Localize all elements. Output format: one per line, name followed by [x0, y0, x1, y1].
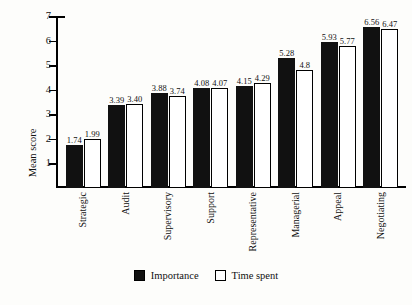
bar-negotiating-time-spent[interactable]: 6.47	[381, 29, 398, 188]
x-axis-cell: Support	[193, 190, 228, 262]
y-tick-label: 5	[46, 60, 51, 71]
legend-item-time-spent[interactable]: Time spent	[215, 270, 279, 281]
x-axis-category-labels: StrategicAuditSupervisorySupportRepresen…	[56, 190, 406, 262]
bar-representative-importance[interactable]: 4.15	[236, 86, 253, 188]
bar-value-label: 6.56	[364, 18, 379, 27]
bar-slot: 3.40	[126, 16, 143, 188]
bar-value-label: 3.88	[152, 84, 167, 93]
x-axis-cell: Audit	[108, 190, 143, 262]
bar-value-label: 4.8	[299, 61, 310, 70]
bar-slot: 1.99	[84, 16, 101, 188]
plot-area: 1234567 1.741.993.393.403.883.744.084.07…	[56, 16, 406, 188]
bar-managerial-time-spent[interactable]: 4.8	[296, 70, 313, 188]
bar-value-label: 4.07	[212, 79, 227, 88]
bar-value-label: 4.29	[255, 74, 270, 83]
x-axis-cell: Appeal	[321, 190, 356, 262]
bar-audit-importance[interactable]: 3.39	[108, 105, 125, 188]
x-axis-label-appeal: Appeal	[333, 192, 343, 221]
x-axis-cell: Strategic	[66, 190, 101, 262]
y-tick-label: 2	[46, 134, 51, 145]
bar-value-label: 4.15	[237, 77, 252, 86]
x-axis-label-supervisory: Supervisory	[163, 192, 173, 240]
x-axis-cell: Supervisory	[151, 190, 186, 262]
y-tick-label: 1	[46, 158, 51, 169]
x-axis-label-support: Support	[206, 192, 216, 224]
bar-slot: 4.07	[211, 16, 228, 188]
bar-value-label: 3.74	[170, 87, 185, 96]
bar-group-negotiating: 6.566.47	[363, 16, 398, 188]
bar-value-label: 3.39	[109, 96, 124, 105]
bar-slot: 5.28	[278, 16, 295, 188]
legend-label: Importance	[151, 270, 199, 281]
bar-group-audit: 3.393.40	[108, 16, 143, 188]
bar-group-supervisory: 3.883.74	[151, 16, 186, 188]
bar-group-strategic: 1.741.99	[66, 16, 101, 188]
bar-appeal-importance[interactable]: 5.93	[321, 42, 338, 188]
bar-slot: 6.47	[381, 16, 398, 188]
bar-group-support: 4.084.07	[193, 16, 228, 188]
bar-value-label: 5.77	[340, 37, 355, 46]
bar-slot: 4.29	[254, 16, 271, 188]
bar-group-appeal: 5.935.77	[321, 16, 356, 188]
y-tick-label: 4	[46, 84, 51, 95]
x-axis-cell: Managerial	[278, 190, 313, 262]
bar-group-representative: 4.154.29	[236, 16, 271, 188]
bar-strategic-time-spent[interactable]: 1.99	[84, 139, 101, 188]
y-tick-label: 3	[46, 109, 51, 120]
bar-slot: 4.15	[236, 16, 253, 188]
chart-page: 1234567 1.741.993.393.403.883.744.084.07…	[0, 0, 412, 305]
chart-legend: ImportanceTime spent	[0, 270, 412, 281]
x-axis-label-strategic: Strategic	[78, 192, 88, 228]
bar-value-label: 5.28	[279, 49, 294, 58]
bar-slot: 6.56	[363, 16, 380, 188]
bar-value-label: 3.40	[127, 95, 142, 104]
bar-strategic-importance[interactable]: 1.74	[66, 145, 83, 188]
bar-audit-time-spent[interactable]: 3.40	[126, 104, 143, 188]
bar-value-label: 5.93	[322, 33, 337, 42]
bar-appeal-time-spent[interactable]: 5.77	[339, 46, 356, 188]
bar-value-label: 4.08	[194, 79, 209, 88]
bar-supervisory-importance[interactable]: 3.88	[151, 93, 168, 188]
filled-square-icon	[134, 270, 145, 281]
x-axis-cell: Negotiating	[363, 190, 398, 262]
x-axis-label-managerial: Managerial	[291, 192, 301, 238]
bar-group-managerial: 5.284.8	[278, 16, 313, 188]
y-tick-label: 7	[46, 11, 51, 22]
bar-slot: 3.88	[151, 16, 168, 188]
bar-managerial-importance[interactable]: 5.28	[278, 58, 295, 188]
bar-slot: 5.93	[321, 16, 338, 188]
bar-slot: 4.08	[193, 16, 210, 188]
bar-groups: 1.741.993.393.403.883.744.084.074.154.29…	[56, 16, 406, 188]
bar-value-label: 1.74	[67, 136, 82, 145]
legend-item-importance[interactable]: Importance	[134, 270, 199, 281]
bar-slot: 1.74	[66, 16, 83, 188]
bar-value-label: 6.47	[382, 20, 397, 29]
hollow-square-icon	[215, 270, 226, 281]
x-axis-cell: Representative	[236, 190, 271, 262]
x-axis-label-audit: Audit	[121, 192, 131, 215]
bar-slot: 3.39	[108, 16, 125, 188]
bar-value-label: 1.99	[85, 130, 100, 139]
x-axis-label-representative: Representative	[248, 192, 258, 251]
y-tick-label: 6	[46, 35, 51, 46]
bar-negotiating-importance[interactable]: 6.56	[363, 27, 380, 188]
y-axis-title: Mean score	[27, 128, 38, 177]
x-axis-label-negotiating: Negotiating	[376, 192, 386, 239]
bar-slot: 5.77	[339, 16, 356, 188]
bar-support-time-spent[interactable]: 4.07	[211, 88, 228, 188]
bar-slot: 3.74	[169, 16, 186, 188]
legend-label: Time spent	[232, 270, 279, 281]
bar-supervisory-time-spent[interactable]: 3.74	[169, 96, 186, 188]
bar-support-importance[interactable]: 4.08	[193, 88, 210, 188]
bar-slot: 4.8	[296, 16, 313, 188]
bar-representative-time-spent[interactable]: 4.29	[254, 83, 271, 188]
